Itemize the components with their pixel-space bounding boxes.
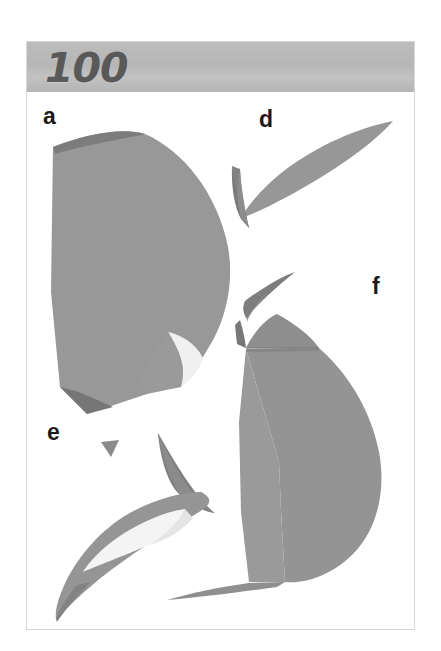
- page-number: 100: [45, 44, 128, 92]
- panel-label-f: f: [372, 275, 380, 298]
- panel-label-e: e: [47, 421, 60, 444]
- figure-page: 100: [26, 41, 415, 630]
- shape-d: [232, 121, 393, 228]
- shape-fleck: [101, 440, 119, 457]
- shape-f: [167, 272, 381, 600]
- figure-canvas: [27, 42, 414, 629]
- page-header-band: 100: [27, 42, 414, 92]
- shape-a: [51, 131, 230, 414]
- shape-e: [56, 433, 215, 622]
- panel-label-d: d: [259, 108, 273, 131]
- panel-label-a: a: [43, 105, 56, 128]
